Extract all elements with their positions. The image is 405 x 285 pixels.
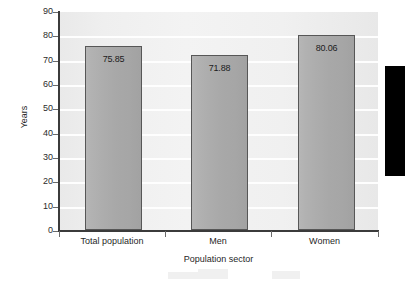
y-axis-tick-label: 20 — [27, 177, 53, 186]
bar-value-label: 80.06 — [299, 43, 354, 53]
x-axis-tick — [378, 231, 379, 237]
y-axis-tick — [53, 61, 58, 62]
x-axis-line — [58, 230, 379, 232]
y-axis-tick — [53, 231, 58, 232]
y-axis-tick-label-wrap: 10 — [20, 202, 53, 212]
y-axis-tick-label: 50 — [27, 104, 53, 113]
y-axis-tick — [53, 36, 58, 37]
y-axis-tick-label: 0 — [27, 226, 53, 235]
y-axis-tick-label: 10 — [27, 202, 53, 211]
y-axis-tick-label-wrap: 90 — [20, 7, 53, 17]
bar-chart-figure: 90 80 70 60 50 40 30 20 10 0 75.85 — [0, 0, 405, 285]
black-block-artifact — [385, 66, 405, 176]
smudge-artifact — [272, 271, 300, 279]
y-axis-tick-label: 80 — [27, 31, 53, 40]
smudge-artifact — [168, 272, 198, 279]
y-axis-tick-label-wrap: 0 — [20, 226, 53, 236]
y-axis-tick — [53, 85, 58, 86]
bar-total-population: 75.85 — [85, 46, 142, 231]
y-axis-line — [58, 11, 60, 232]
y-axis-tick-label: 40 — [27, 129, 53, 138]
y-axis-tick-label: 70 — [27, 56, 53, 65]
y-axis-tick-label-wrap: 80 — [20, 31, 53, 41]
smudge-artifact — [198, 269, 228, 279]
bar-women: 80.06 — [298, 35, 355, 230]
y-axis-tick-label: 60 — [27, 80, 53, 89]
y-axis-tick — [53, 109, 58, 110]
x-axis-category-label-women: Women — [271, 236, 378, 247]
bar-men: 71.88 — [191, 55, 248, 230]
y-axis-tick — [53, 134, 58, 135]
x-axis-category-label-total-population: Total population — [59, 236, 165, 247]
y-axis-tick — [53, 12, 58, 13]
y-axis-tick — [53, 182, 58, 183]
y-axis-tick-label-wrap: 20 — [20, 177, 53, 187]
y-axis-tick-label-wrap: 70 — [20, 56, 53, 66]
y-axis-tick — [53, 207, 58, 208]
bar-value-label: 75.85 — [86, 54, 141, 64]
y-axis-tick-label: 30 — [27, 153, 53, 162]
bar-value-label: 71.88 — [192, 63, 247, 73]
y-axis-title: Years — [19, 87, 29, 147]
y-axis-tick-label: 90 — [27, 7, 53, 16]
y-axis-tick — [53, 158, 58, 159]
x-axis-category-label-men: Men — [165, 236, 271, 247]
x-axis-title: Population sector — [59, 254, 378, 265]
y-axis-tick-label-wrap: 30 — [20, 153, 53, 163]
